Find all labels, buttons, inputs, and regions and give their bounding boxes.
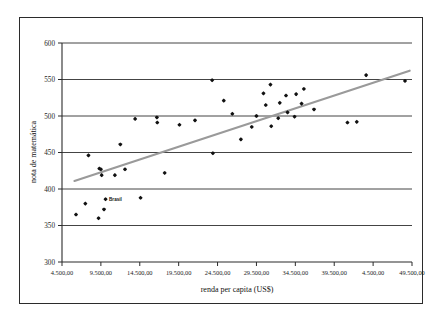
data-point [239,137,243,141]
data-point [268,83,272,87]
data-point [100,173,104,177]
data-point [293,115,297,119]
data-point [74,213,78,217]
x-axis-ticks [62,262,412,266]
y-axis-ticks [58,43,62,262]
data-point [133,117,137,121]
data-point [254,114,258,118]
data-point [210,78,214,82]
data-point [264,103,268,107]
data-point [155,121,159,125]
figure: 300350400450500550600 4.500,009.500,0014… [0,0,438,320]
y-tick-label: 400 [44,186,55,194]
data-point [284,94,288,98]
data-point [139,196,143,200]
y-axis-title: nota de matemática [29,120,38,183]
data-point [97,216,101,220]
data-point [102,207,106,211]
data-point [312,107,316,111]
x-tick-label: 49.500,00 [399,269,425,276]
scatter-chart: 300350400450500550600 4.500,009.500,0014… [0,0,438,320]
data-point [86,153,90,157]
data-point [261,91,265,95]
data-point [123,167,127,171]
data-point [113,173,117,177]
data-point [83,202,87,206]
y-tick-label: 450 [44,149,55,157]
x-tick-label: 4.500,00 [51,269,73,276]
data-point [104,197,108,201]
data-points [74,73,407,220]
x-tick-label: 19.500,00 [166,269,192,276]
data-point [355,120,359,124]
data-point [302,87,306,91]
data-point [222,99,226,103]
x-tick-label: 4.500,00 [362,269,384,276]
data-point [211,151,215,155]
data-point [250,125,254,129]
y-tick-label: 500 [44,113,55,121]
x-tick-label: 39.500,00 [321,269,347,276]
y-tick-label: 350 [44,222,55,230]
data-point [269,124,273,128]
trend-line [74,71,409,181]
annotation-label: Brasil [109,197,122,202]
data-point [118,142,122,146]
x-tick-label: 24.500,00 [205,269,231,276]
x-tick-label: 29.500,00 [244,269,270,276]
data-point [345,121,349,125]
trend-line-segment [74,71,409,181]
x-axis-title: renda per capita (US$) [201,285,274,294]
y-axis-tick-labels: 300350400450500550600 [44,40,55,267]
x-axis-tick-labels: 4.500,009.500,0014.500,0019.500,0024.500… [51,269,425,276]
x-tick-label: 9.500,00 [90,269,112,276]
gridlines [62,43,412,262]
y-tick-label: 550 [44,76,55,84]
data-point [278,101,282,105]
y-tick-label: 300 [44,259,55,267]
data-point [294,92,298,96]
data-point [364,73,368,77]
data-point [163,171,167,175]
x-tick-label: 34.500,00 [283,269,309,276]
x-tick-label: 14.500,00 [127,269,153,276]
data-point [230,112,234,116]
data-point [177,123,181,127]
point-annotations: Brasil [109,197,122,202]
data-point [276,116,280,120]
y-tick-label: 600 [44,40,55,48]
data-point [193,118,197,122]
